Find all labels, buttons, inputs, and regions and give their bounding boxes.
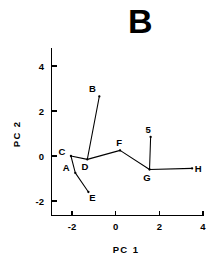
y-tick-label-neg2: -2 — [36, 196, 44, 207]
y-axis-title: PC 2 — [11, 121, 22, 148]
data-point-B — [98, 95, 100, 97]
point-label-F: F — [116, 137, 122, 148]
data-point-G — [148, 168, 150, 170]
data-point-labels: ABCDEFG5H — [59, 83, 202, 203]
data-point-F — [119, 149, 121, 151]
point-label-B: B — [89, 83, 96, 94]
data-point-D — [86, 158, 88, 160]
x-axis-ticks — [72, 211, 203, 216]
point-label-G: G — [143, 172, 150, 183]
axes-group — [52, 48, 204, 216]
point-label-5: 5 — [145, 124, 151, 135]
point-label-C: C — [59, 146, 66, 157]
y-tick-label-4: 4 — [39, 61, 45, 72]
point-label-E: E — [89, 192, 95, 203]
data-path-2 — [87, 96, 99, 159]
y-tick-label-2: 2 — [39, 106, 44, 117]
data-point-H — [191, 167, 193, 169]
data-point-5 — [149, 136, 151, 138]
data-path-1 — [71, 150, 192, 192]
x-axis-title: PC 1 — [113, 244, 140, 255]
x-tick-label-0: 0 — [113, 221, 118, 232]
y-tick-label-0: 0 — [39, 151, 44, 162]
point-label-A: A — [63, 162, 70, 173]
plot-canvas: 4 2 0 -2 -2 0 2 4 PC 1 PC 2 ABCDEFG5H — [0, 0, 214, 268]
y-tick-labels: 4 2 0 -2 — [36, 61, 45, 207]
pca-score-plot-figure: B 4 2 0 -2 -2 0 — [0, 0, 214, 268]
data-point-A — [74, 172, 76, 174]
x-tick-labels: -2 0 2 4 — [68, 221, 207, 232]
x-tick-label-2: 2 — [157, 221, 162, 232]
point-label-D: D — [81, 161, 88, 172]
data-series — [70, 95, 193, 193]
x-tick-label-neg2: -2 — [68, 221, 76, 232]
data-path-3 — [150, 137, 151, 170]
data-point-C — [70, 155, 72, 157]
point-label-H: H — [195, 163, 202, 174]
y-axis-ticks — [52, 66, 57, 201]
x-tick-label-4: 4 — [200, 221, 206, 232]
